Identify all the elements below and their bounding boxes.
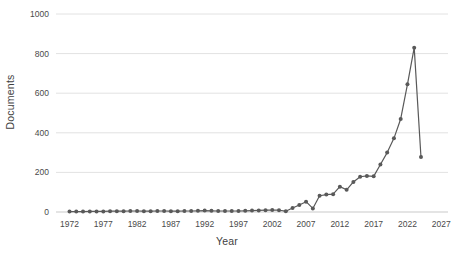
data-point-marker — [196, 209, 200, 213]
data-point-marker — [101, 209, 105, 213]
chart-plot-area: 02004006008001000 1972197719821987199219… — [0, 0, 454, 260]
data-point-marker — [209, 209, 213, 213]
data-point-marker — [365, 174, 369, 178]
data-point-marker — [270, 208, 274, 212]
data-point-marker — [169, 209, 173, 213]
data-point-marker — [284, 209, 288, 213]
data-point-marker — [318, 194, 322, 198]
data-point-marker — [95, 209, 99, 213]
x-axis-tick-labels: 1972197719821987199219972002200720122017… — [60, 219, 451, 229]
data-point-marker — [277, 208, 281, 212]
data-point-marker — [399, 117, 403, 121]
data-point-marker — [291, 206, 295, 210]
x-axis-title: Year — [0, 235, 454, 247]
data-point-marker — [135, 209, 139, 213]
data-point-marker — [345, 188, 349, 192]
x-tick-label: 1997 — [229, 219, 248, 229]
data-point-marker — [250, 209, 254, 213]
data-point-marker — [324, 193, 328, 197]
data-point-marker — [68, 210, 72, 214]
data-point-marker — [419, 155, 423, 159]
x-tick-label: 2002 — [263, 219, 282, 229]
data-point-marker — [149, 209, 153, 213]
data-point-marker — [115, 209, 119, 213]
x-tick-label: 2007 — [297, 219, 316, 229]
data-point-marker — [297, 203, 301, 207]
data-point-marker — [358, 175, 362, 179]
x-tick-label: 1987 — [161, 219, 180, 229]
data-point-marker — [412, 46, 416, 50]
data-point-marker — [236, 209, 240, 213]
data-point-marker — [142, 209, 146, 213]
series-polyline — [70, 48, 421, 212]
x-tick-label: 1992 — [195, 219, 214, 229]
x-tick-label: 1977 — [94, 219, 113, 229]
data-point-markers — [68, 46, 423, 214]
gridlines — [56, 14, 448, 212]
data-point-marker — [216, 209, 220, 213]
data-point-marker — [176, 209, 180, 213]
data-point-marker — [203, 209, 207, 213]
data-point-marker — [189, 209, 193, 213]
x-tick-label: 1982 — [128, 219, 147, 229]
data-point-marker — [257, 208, 261, 212]
x-tick-label: 2022 — [398, 219, 417, 229]
y-tick-label: 400 — [35, 128, 49, 138]
y-tick-label: 1000 — [30, 9, 49, 19]
data-point-marker — [304, 200, 308, 204]
data-point-marker — [155, 209, 159, 213]
data-point-marker — [182, 209, 186, 213]
x-tick-label: 2012 — [330, 219, 349, 229]
data-point-marker — [81, 210, 85, 214]
data-series-line — [70, 48, 421, 212]
y-tick-label: 200 — [35, 167, 49, 177]
data-point-marker — [378, 162, 382, 166]
line-chart: 02004006008001000 1972197719821987199219… — [0, 0, 454, 260]
y-tick-label: 800 — [35, 49, 49, 59]
data-point-marker — [88, 209, 92, 213]
data-point-marker — [74, 210, 78, 214]
data-point-marker — [264, 208, 268, 212]
x-tick-label: 1972 — [60, 219, 79, 229]
data-point-marker — [223, 209, 227, 213]
data-point-marker — [385, 151, 389, 155]
data-point-marker — [405, 82, 409, 86]
data-point-marker — [331, 192, 335, 196]
data-point-marker — [372, 174, 376, 178]
x-tick-label: 2017 — [364, 219, 383, 229]
x-tick-label: 2027 — [432, 219, 451, 229]
y-tick-label: 0 — [44, 207, 49, 217]
y-axis-title: Documents — [4, 62, 16, 142]
data-point-marker — [311, 206, 315, 210]
data-point-marker — [230, 209, 234, 213]
data-point-marker — [351, 180, 355, 184]
data-point-marker — [243, 209, 247, 213]
data-point-marker — [108, 209, 112, 213]
y-tick-label: 600 — [35, 88, 49, 98]
data-point-marker — [122, 209, 126, 213]
data-point-marker — [338, 185, 342, 189]
data-point-marker — [392, 136, 396, 140]
data-point-marker — [162, 209, 166, 213]
y-axis-tick-labels: 02004006008001000 — [30, 9, 49, 217]
data-point-marker — [128, 209, 132, 213]
